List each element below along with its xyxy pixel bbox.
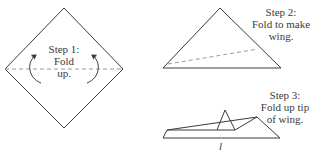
- step2-line1: Fold to make: [246, 18, 313, 30]
- step3-label: Step 3: Fold up tip of wing.: [253, 89, 313, 125]
- step3-line2: of wing.: [253, 113, 313, 125]
- step1-line2: up.: [39, 67, 89, 79]
- step1-line1: Fold: [39, 55, 89, 67]
- step2-line2: wing.: [246, 30, 313, 42]
- plane-left-edge: [163, 130, 167, 138]
- wing-upper-edge: [167, 117, 257, 130]
- step2-label: Step 2: Fold to make wing.: [246, 6, 313, 42]
- length-label: l: [219, 140, 222, 152]
- wing-fold-line-dashed: [168, 49, 258, 64]
- step3-title: Step 3:: [253, 89, 313, 101]
- step1-label: Step 1: Fold up.: [39, 43, 89, 79]
- step1-title: Step 1:: [39, 43, 89, 55]
- step2-title: Step 2:: [246, 6, 313, 18]
- step3-line1: Fold up tip: [253, 101, 313, 113]
